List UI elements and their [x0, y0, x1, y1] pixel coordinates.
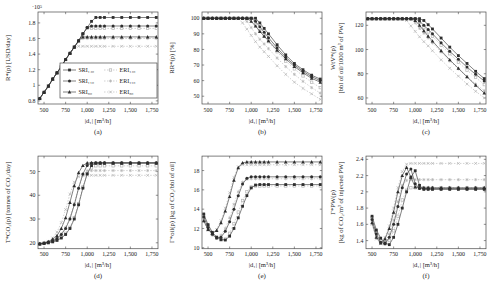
x-tick-label: 1,500 [452, 251, 465, 257]
x-axis-label: |d₁| [m³/h] [413, 117, 440, 125]
plot-e: 5007501,0001,2501,5001,7501012141618Γ*oi… [164, 144, 328, 289]
axes-frame [366, 12, 486, 104]
y-tick-label: 2 [361, 189, 364, 195]
series-ERI₈₀ [366, 17, 485, 99]
y-tick-label: 1.8 [356, 205, 363, 211]
series-SRI₈₀ [370, 166, 486, 245]
plot-c: 5007501,0001,2501,5001,7506080100120WtV*… [328, 0, 492, 144]
x-tick-label: 1,000 [245, 107, 258, 113]
series-SRI₁₄₀ [202, 183, 321, 241]
x-tick-label: 1,000 [409, 107, 422, 113]
y-axis-label: Γ*PW(p) [329, 190, 337, 215]
plot-c-canvas: 5007501,0001,2501,5001,7506080100120WtV*… [328, 0, 492, 144]
legend-label: SRI₈₀ [79, 89, 93, 95]
x-axis-label: |d₁| [m³/h] [249, 261, 275, 269]
legend-label: ERI₁₄₀ [120, 67, 136, 73]
y-tick-label: 1.6 [28, 36, 35, 42]
subplot-caption: (e) [258, 272, 266, 280]
y-tick-label: 2.4 [356, 156, 363, 162]
plot-d: 5007501,0001,2501,5001,75020304050T*CO₂(… [0, 144, 164, 289]
x-axis-label: |d₁| [m³/h] [85, 117, 112, 125]
series-ERI₁₁₀ [202, 17, 321, 95]
x-tick-label: 1,250 [102, 107, 115, 113]
legend-label: ERI₈₀ [120, 89, 134, 95]
y-tick-label: 1 [33, 82, 36, 88]
x-tick-label: 1,500 [124, 251, 137, 257]
legend-label: SRI₁₁₀ [79, 78, 95, 84]
x-tick-label: 500 [204, 107, 213, 113]
y-tick-label: 70 [194, 62, 200, 68]
y-tick-label: 60 [358, 95, 364, 101]
y-tick-label: 14 [194, 206, 200, 212]
y-tick-label: 1.4 [28, 51, 35, 57]
y-tick-label: 2.2 [356, 173, 363, 179]
y-axis-label: Γ*oil(p) [kg of CO₂/bbl of oil] [168, 162, 176, 243]
series-ERI₈₀ [202, 163, 321, 235]
x-tick-label: 500 [40, 251, 49, 257]
x-tick-label: 500 [40, 107, 49, 113]
subplot-caption: (d) [94, 272, 103, 280]
subplot-caption: (a) [94, 128, 102, 136]
series-SRI₈₀ [38, 161, 158, 245]
series-SRI₁₄₀ [202, 17, 321, 81]
y-tick-label: 100 [191, 15, 200, 21]
x-tick-label: 500 [204, 251, 213, 257]
y-tick-label: 60 [194, 78, 200, 84]
series-ERI₈₀ [371, 162, 486, 245]
x-tick-label: 1,750 [473, 107, 486, 113]
y-tick-label: 20 [30, 240, 36, 246]
y-tick-label: 18 [194, 168, 200, 174]
x-tick-label: 1,750 [473, 251, 486, 257]
series-ERI₈₀ [38, 174, 157, 245]
y-tick-label: 50 [30, 169, 36, 175]
legend-label: SRI₁₄₀ [79, 67, 95, 73]
x-tick-label: 1,250 [266, 107, 279, 113]
x-tick-label: 1,000 [81, 251, 94, 257]
x-tick-label: 750 [225, 251, 234, 257]
y-axis-label: T*CO₂(p) [tonnes of CO₂/day] [4, 161, 12, 243]
y-tick-label: 80 [358, 71, 364, 77]
x-tick-label: 750 [61, 251, 70, 257]
plot-f-canvas: 5007501,0001,2501,5001,7501.41.61.822.22… [328, 144, 492, 289]
series-SRI₁₁₀ [202, 17, 322, 82]
x-tick-label: 1,750 [309, 251, 322, 257]
subplot-caption: (f) [423, 272, 431, 280]
x-tick-label: 1,750 [145, 251, 158, 257]
y-tick-label: 30 [30, 216, 36, 222]
x-tick-label: 1,750 [145, 107, 158, 113]
y-tick-label: 1.4 [356, 238, 363, 244]
subplot-caption: (c) [422, 128, 430, 136]
plot-f: 5007501,0001,2501,5001,7501.41.61.822.22… [328, 144, 492, 289]
series-ERI₁₄₀ [371, 187, 486, 245]
subplot-caption: (b) [258, 128, 267, 136]
x-tick-label: 1,250 [102, 251, 115, 257]
y-tick-label: 100 [355, 47, 364, 53]
series-ERI₁₁₀ [366, 17, 485, 92]
x-tick-label: 750 [61, 107, 70, 113]
series-SRI₈₀ [202, 16, 322, 83]
y-axis-label-units: [bbl of oil/1000 m³ of PW] [337, 22, 345, 93]
x-tick-label: 1,000 [245, 251, 258, 257]
x-tick-label: 1,250 [430, 251, 443, 257]
y-tick-label: 1.2 [28, 67, 35, 73]
x-tick-label: 500 [368, 251, 377, 257]
y-tick-label: 80 [194, 47, 200, 53]
series-ERI₁₄₀ [203, 17, 322, 89]
legend: SRI₁₄₀SRI₁₁₀SRI₈₀ERI₁₄₀ERI₁₁₀ERI₈₀ [60, 63, 157, 98]
y-tick-label: 40 [30, 192, 36, 198]
axes-frame [366, 156, 486, 249]
x-tick-label: 1,250 [266, 251, 279, 257]
y-tick-label: 50 [194, 93, 200, 99]
y-tick-label: 0.8 [28, 98, 35, 104]
x-tick-label: 1,750 [309, 107, 322, 113]
x-tick-label: 1,000 [409, 251, 422, 257]
y-tick-label: 90 [194, 31, 200, 37]
plot-b: 5007501,0001,2501,5001,7505060708090100R… [164, 0, 328, 144]
series-ERI₁₄₀ [203, 185, 322, 241]
series-SRI₈₀ [202, 160, 322, 235]
y-tick-label: 1.8 [28, 20, 35, 26]
y-tick-label: 12 [194, 226, 200, 232]
x-tick-label: 500 [368, 107, 377, 113]
y-tick-label: 16 [194, 187, 200, 193]
plot-e-canvas: 5007501,0001,2501,5001,7501012141618Γ*oi… [164, 144, 328, 289]
